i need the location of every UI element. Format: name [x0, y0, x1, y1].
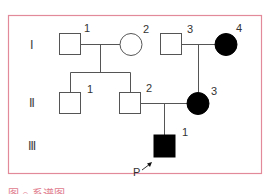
proband-arrow-icon	[142, 162, 152, 170]
individual-i3-label: 3	[187, 23, 193, 35]
individual-ii2-label: 2	[146, 82, 152, 94]
svg-text:图 ○ 系谱图: 图 ○ 系谱图	[8, 187, 65, 194]
generation-label-2: Ⅱ	[29, 96, 35, 110]
individual-ii2-male-unaffected	[120, 93, 141, 114]
individual-iii1-male-affected-proband	[154, 135, 175, 157]
individual-i2-female-unaffected	[120, 34, 142, 56]
individual-i4-female-affected	[215, 34, 237, 56]
individual-i1-label: 1	[84, 22, 90, 34]
figure-caption: 图 ○ 系谱图	[8, 187, 65, 194]
individual-i1-male-unaffected	[60, 34, 81, 55]
pedigree-diagram: Ⅰ Ⅱ Ⅲ 1 2 3 4 1 2 3 1 P 图 ○ 系谱图	[0, 0, 269, 194]
individual-ii3-label: 3	[211, 85, 217, 97]
individual-ii3-female-affected	[187, 93, 209, 115]
individual-i3-male-unaffected	[161, 34, 182, 55]
individual-i4-label: 4	[236, 22, 242, 34]
individual-ii1-male-unaffected	[60, 93, 81, 114]
individual-i2-label: 2	[143, 23, 149, 35]
individual-iii1-label: 1	[182, 126, 188, 138]
individual-ii1-label: 1	[87, 83, 93, 95]
generation-label-3: Ⅲ	[28, 139, 36, 153]
generation-label-1: Ⅰ	[30, 38, 34, 52]
proband-marker: P	[133, 166, 140, 178]
